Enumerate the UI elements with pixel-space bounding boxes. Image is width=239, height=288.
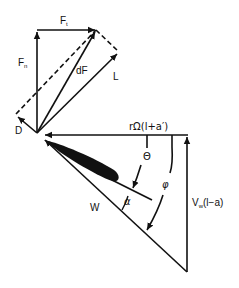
chord-line bbox=[112, 180, 152, 200]
axial-velocity-main: V bbox=[192, 197, 199, 208]
fn-sub: n bbox=[24, 63, 27, 69]
theta-label: Θ bbox=[143, 152, 151, 162]
relative-velocity-arrow bbox=[45, 140, 187, 272]
relative-velocity-label: W bbox=[90, 203, 99, 213]
alpha-label: α bbox=[124, 197, 131, 207]
blade-element-diagram bbox=[0, 0, 239, 288]
resultant-force-label: dF bbox=[76, 66, 88, 76]
lift-label: L bbox=[113, 72, 119, 82]
axial-velocity-label: Vw(l−a) bbox=[192, 198, 223, 209]
phi-arc bbox=[170, 147, 172, 173]
airfoil-shape bbox=[44, 140, 119, 181]
phi-label: φ bbox=[162, 180, 169, 190]
dashed-lift-parallel bbox=[96, 30, 119, 52]
tangential-force-label: Ft bbox=[60, 16, 68, 27]
rotational-velocity-text: rΩ(l+a′) bbox=[129, 121, 168, 132]
phi-arc-lower bbox=[147, 195, 163, 230]
ft-sub: t bbox=[66, 21, 68, 27]
theta-arc bbox=[133, 165, 141, 188]
axial-velocity-rest: (l−a) bbox=[203, 197, 223, 208]
drag-label: D bbox=[15, 126, 22, 136]
rotational-velocity-label: rΩ(l+a′) bbox=[129, 122, 168, 132]
normal-force-label: Fn bbox=[18, 58, 27, 69]
